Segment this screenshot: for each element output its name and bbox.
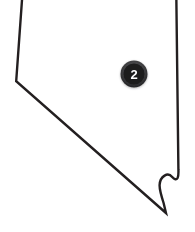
state-boundary-nevada <box>16 0 178 213</box>
state-map-svg: 2 <box>0 0 195 232</box>
map-marker-2[interactable]: 2 <box>121 61 148 88</box>
map-container: 2 <box>0 0 195 232</box>
marker-label: 2 <box>130 67 137 82</box>
